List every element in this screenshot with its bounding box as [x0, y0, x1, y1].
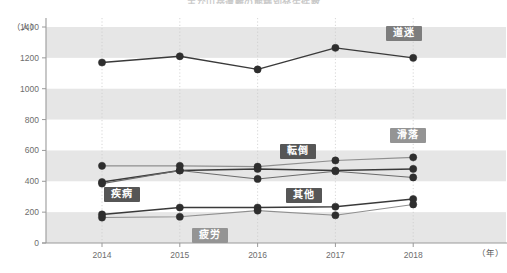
y-axis-tick-labels: 0200400600800100012001400: [20, 22, 39, 248]
series-label-tentou: 転倒: [280, 144, 316, 159]
chart-container: 主な山岳遭難の態様別発生件数 0200400600800100012001400…: [0, 0, 507, 273]
svg-text:2016: 2016: [248, 250, 267, 260]
svg-text:200: 200: [25, 207, 39, 217]
series-label-shippei: 疾病: [104, 187, 140, 202]
svg-text:2014: 2014: [93, 250, 112, 260]
svg-text:0: 0: [34, 238, 39, 248]
line-chart-plot: 0200400600800100012001400 20142015201620…: [0, 0, 507, 273]
svg-text:2017: 2017: [326, 250, 345, 260]
series-label-michimayoi: 道迷: [386, 26, 422, 41]
series-label-hirou: 疲労: [192, 228, 228, 243]
x-axis-tick-labels: 20142015201620172018: [93, 250, 423, 260]
svg-text:2015: 2015: [170, 250, 189, 260]
svg-text:1000: 1000: [20, 84, 39, 94]
series-label-sonota: 其他: [286, 188, 322, 203]
series-points: [98, 44, 416, 221]
background-bands: [46, 27, 506, 243]
x-axis-unit-label: （年）: [477, 248, 504, 258]
svg-text:400: 400: [25, 176, 39, 186]
svg-text:1200: 1200: [20, 53, 39, 63]
y-axis-unit-label: （人）: [12, 22, 39, 32]
svg-text:2018: 2018: [404, 250, 423, 260]
y-axis-ticks: [42, 27, 46, 243]
svg-text:800: 800: [25, 115, 39, 125]
svg-text:600: 600: [25, 145, 39, 155]
series-label-kakuraku: 滑落: [390, 128, 426, 143]
